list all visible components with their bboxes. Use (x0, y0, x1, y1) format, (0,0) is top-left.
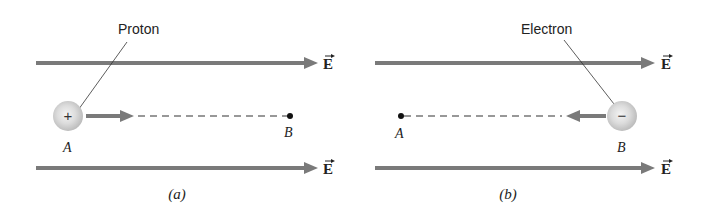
svg-text:E: E (661, 56, 671, 72)
electric-field-diagram: E E Proton B + A (a (0, 0, 712, 212)
minus-sign-icon: − (618, 107, 627, 124)
point-b-label-a: B (284, 125, 293, 140)
point-a-label-b: A (394, 126, 404, 141)
field-label-top-b: E (661, 54, 673, 72)
velocity-arrow-b (566, 110, 606, 122)
electron-particle: − (607, 101, 637, 131)
point-b-label-b: B (617, 140, 626, 155)
panel-a: E E Proton B + A (a (36, 21, 335, 203)
svg-text:E: E (661, 161, 671, 177)
plus-sign-icon: + (64, 107, 73, 124)
field-arrow-top-b (375, 57, 655, 69)
field-arrow-bottom-a (36, 162, 318, 174)
proton-label: Proton (118, 21, 159, 37)
field-arrow-bottom-b (375, 162, 655, 174)
panel-b: E E Electron A − B (b) (375, 21, 673, 203)
electron-label: Electron (521, 21, 572, 37)
field-label-bottom-a: E (323, 159, 335, 177)
point-a-dot-b (398, 113, 404, 119)
point-b-dot-a (287, 113, 293, 119)
svg-text:E: E (323, 161, 333, 177)
proton-leader-line (76, 42, 127, 113)
svg-text:E: E (323, 56, 333, 72)
point-a-label-a: A (62, 140, 72, 155)
field-arrow-top-a (36, 57, 318, 69)
proton-particle: + (53, 101, 83, 131)
caption-a: (a) (168, 186, 186, 203)
field-label-bottom-b: E (661, 159, 673, 177)
caption-b: (b) (499, 186, 517, 203)
field-label-top-a: E (323, 54, 335, 72)
velocity-arrow-a (86, 110, 134, 122)
electron-leader-line (564, 40, 614, 104)
